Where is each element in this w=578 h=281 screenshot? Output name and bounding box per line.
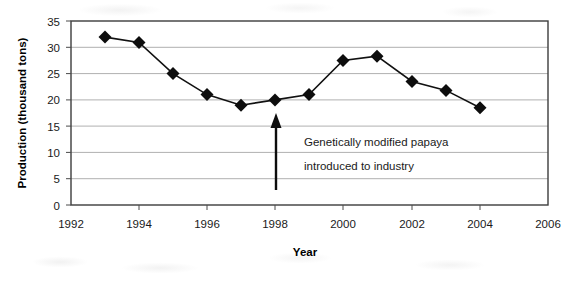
x-tick-label-1994: 1994 bbox=[126, 218, 152, 230]
y-tick-label-30: 30 bbox=[47, 42, 60, 54]
y-tick-label-25: 25 bbox=[47, 68, 60, 80]
y-tick-label-10: 10 bbox=[47, 147, 60, 159]
annotation-line-1: Genetically modified papaya bbox=[304, 136, 449, 148]
plot-area-background bbox=[71, 21, 548, 205]
x-tick-label-2002: 2002 bbox=[399, 218, 425, 230]
x-tick-label-2000: 2000 bbox=[330, 218, 356, 230]
y-tick-label-0: 0 bbox=[54, 200, 60, 212]
x-tick-label-1998: 1998 bbox=[262, 218, 288, 230]
y-tick-label-5: 5 bbox=[54, 173, 60, 185]
y-tick-label-20: 20 bbox=[47, 94, 60, 106]
x-tick-label-2006: 2006 bbox=[535, 218, 561, 230]
y-tick-label-15: 15 bbox=[47, 121, 60, 133]
x-tick-labels: 1992 1994 1996 1998 2000 2002 2004 2006 bbox=[58, 218, 561, 230]
x-tick-label-1992: 1992 bbox=[58, 218, 84, 230]
production-line-chart: 35 30 25 20 15 10 5 0 1992 1994 1996 199… bbox=[0, 0, 578, 281]
chart-canvas: 35 30 25 20 15 10 5 0 1992 1994 1996 199… bbox=[0, 0, 578, 281]
x-axis-ticks bbox=[139, 205, 480, 210]
y-axis-title: Production (thousand tons) bbox=[16, 37, 28, 188]
y-tick-labels: 35 30 25 20 15 10 5 0 bbox=[47, 16, 60, 212]
x-axis-title: Year bbox=[293, 246, 318, 258]
y-axis-ticks bbox=[66, 21, 71, 205]
x-tick-label-2004: 2004 bbox=[467, 218, 493, 230]
x-tick-label-1996: 1996 bbox=[194, 218, 220, 230]
annotation-line-2: introduced to industry bbox=[304, 160, 414, 172]
y-tick-label-35: 35 bbox=[47, 16, 60, 28]
